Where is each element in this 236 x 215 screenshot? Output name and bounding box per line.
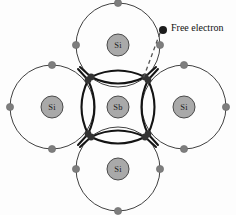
valence-dot [180,145,187,152]
bond-right [142,80,155,134]
atom-label-right: Si [180,102,188,112]
valence-dot [48,145,55,152]
atom-label-bottom: Si [114,164,122,174]
valence-dot [222,103,229,110]
atom-label-top: Si [114,40,122,50]
valence-dot [114,0,121,7]
valence-dot [72,165,79,172]
valence-dot [156,165,163,172]
doping-diagram: Si Si Si Si Sb Free electron [0,0,236,215]
valence-dot [6,103,13,110]
bond-node-br-lower [142,134,149,141]
bond-node-tr-right [145,77,152,84]
valence-dot [156,41,163,48]
free-electron-dot [159,26,167,34]
valence-dot [48,61,55,68]
bond-bottom [91,131,145,144]
figure-canvas: Si Si Si Si Sb Free electron [0,0,236,215]
free-electron-group: Free electron [143,22,223,80]
valence-dot [114,207,121,214]
bond-node-tl-left [85,77,92,84]
atom-label-center: Sb [113,102,122,112]
bond-top [91,71,145,84]
bond-left [82,80,95,134]
atom-label-left: Si [48,102,56,112]
bond-node-bl-lower [88,134,95,141]
valence-dot [72,41,79,48]
valence-dot [180,61,187,68]
free-electron-label: Free electron [171,22,223,33]
atom-core-group: Si Si Si Si Sb [41,34,195,180]
